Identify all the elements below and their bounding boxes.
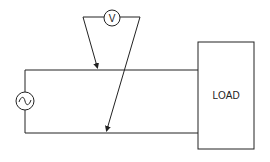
- probe-left: [83, 17, 98, 68]
- circuit-diagram: V LOAD: [0, 0, 270, 162]
- probe-right: [107, 17, 141, 131]
- voltmeter-label: V: [109, 13, 116, 24]
- load-label: LOAD: [198, 42, 254, 149]
